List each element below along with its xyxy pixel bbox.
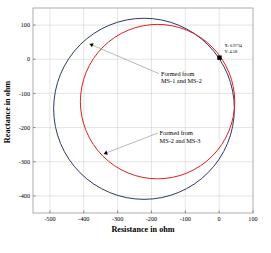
plot-area-background xyxy=(33,8,253,213)
x-tick-label: -200 xyxy=(146,215,157,222)
x-tick-label: 0 xyxy=(218,215,221,222)
y-axis-label: Reactance in ohm xyxy=(3,81,12,143)
y-tick-label: 100 xyxy=(21,21,30,28)
x-axis-label: Resistance in ohm xyxy=(111,225,174,234)
y-tick-label: -100 xyxy=(19,90,30,97)
data-tip-x-label: X: 0.9734 xyxy=(224,43,242,48)
annotation-line-2: MS-1 and MS-2 xyxy=(161,77,202,84)
y-tick-label: -400 xyxy=(19,192,30,199)
x-tick-label: 100 xyxy=(248,215,257,222)
annotation-line-2: MS-2 and MS-3 xyxy=(160,137,201,144)
x-tick-label: -500 xyxy=(44,215,55,222)
data-tip-marker xyxy=(217,55,221,59)
y-tick-label: 0 xyxy=(27,55,30,62)
annotation-line-1: Formed from xyxy=(161,70,195,77)
data-tip-y-label: Y: 4.58 xyxy=(224,49,238,54)
y-tick-label: -200 xyxy=(19,124,30,131)
y-tick-label: -300 xyxy=(19,158,30,165)
chart-figure: -500-400-300-200-1000100 1000-100-200-30… xyxy=(0,0,271,253)
x-tick-label: -100 xyxy=(180,215,191,222)
x-tick-label: -300 xyxy=(112,215,123,222)
reactance-vs-resistance-plot: -500-400-300-200-1000100 1000-100-200-30… xyxy=(0,0,271,253)
annotation-line-1: Formed from xyxy=(160,129,194,136)
x-tick-label: -400 xyxy=(78,215,89,222)
